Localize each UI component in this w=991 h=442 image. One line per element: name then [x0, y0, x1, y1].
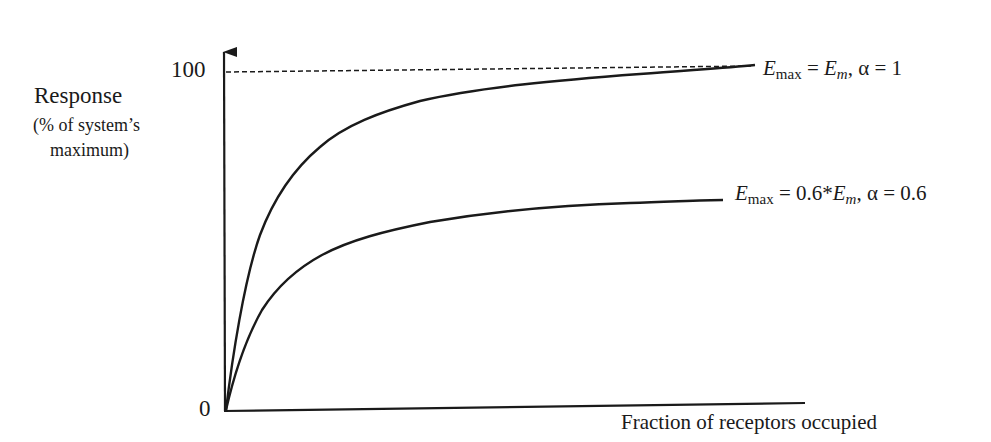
- alpha-text: , α = 0.6: [856, 181, 926, 205]
- curve-partial-efficacy: [226, 200, 723, 410]
- y-axis: [224, 52, 225, 411]
- y-axis-label: Response: [34, 83, 122, 109]
- em-subscript: m: [837, 66, 848, 82]
- em-symbol: E: [833, 181, 846, 205]
- equals-text: =: [802, 56, 824, 80]
- x-axis-label: Fraction of receptors occupied: [621, 410, 877, 435]
- emax-subscript: max: [748, 191, 774, 207]
- y-axis-sublabel-line1: (% of system’s: [33, 115, 140, 136]
- alpha-text: , α = 1: [848, 56, 902, 80]
- series-label-partial-efficacy: Emax = 0.6*Em, α = 0.6: [735, 181, 927, 208]
- em-symbol: E: [824, 56, 837, 80]
- emax-subscript: max: [776, 66, 802, 82]
- y-axis-sublabel-line2: maximum): [50, 140, 129, 161]
- emax-symbol: E: [763, 56, 776, 80]
- em-subscript: m: [846, 191, 857, 207]
- equals-text: = 0.6*: [774, 181, 833, 205]
- emax-symbol: E: [735, 181, 748, 205]
- y-tick-100: 100: [171, 57, 206, 83]
- series-label-full-efficacy: Emax = Em, α = 1: [763, 56, 902, 83]
- y-tick-0: 0: [199, 396, 211, 422]
- curve-full-efficacy: [226, 65, 755, 410]
